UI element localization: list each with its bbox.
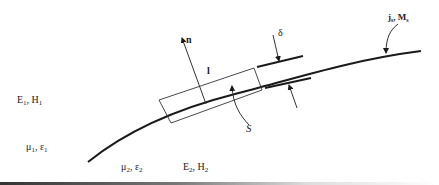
contour-label: l bbox=[207, 65, 210, 76]
interface-diagram: n l S δ js, Ms E1, H1 μ1, ε1 μ2, ε2 E2, … bbox=[0, 0, 439, 185]
region2-media-label: μ2, ε2 bbox=[121, 161, 143, 174]
diagram-canvas: n l S δ js, Ms E1, H1 μ1, ε1 μ2, ε2 E2, … bbox=[0, 0, 439, 185]
thickness-arrow-top bbox=[273, 35, 279, 61]
region1-media-label: μ1, ε1 bbox=[26, 141, 48, 154]
bottom-border bbox=[0, 182, 439, 185]
contour-box bbox=[159, 68, 262, 123]
surface-sources-label: js, Ms bbox=[387, 12, 409, 23]
normal-arrow bbox=[182, 38, 206, 104]
interface-curve bbox=[88, 51, 421, 162]
thickness-arrow-bottom bbox=[289, 85, 297, 108]
sheet-upper-edge bbox=[257, 56, 303, 67]
thickness-label: δ bbox=[278, 27, 283, 38]
region1-fields-label: E1, H1 bbox=[17, 94, 43, 107]
surface-label: S bbox=[246, 122, 252, 134]
normal-label: n bbox=[186, 34, 192, 45]
surface-sources-arrow bbox=[386, 24, 398, 53]
region2-fields-label: E2, H2 bbox=[183, 161, 209, 174]
